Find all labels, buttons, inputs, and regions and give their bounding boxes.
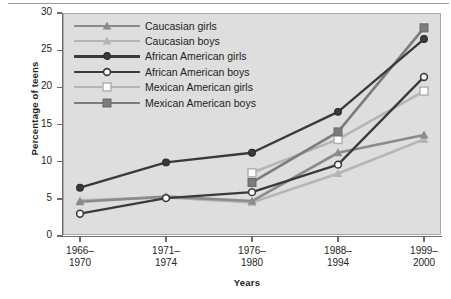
legend-label: Mexican American girls bbox=[140, 81, 253, 93]
data-point-marker bbox=[248, 178, 256, 186]
chart-legend: Caucasian girlsCaucasian boysAfrican Ame… bbox=[74, 18, 299, 110]
data-point-marker bbox=[104, 53, 111, 60]
legend-item-caucasian-girls[interactable]: Caucasian girls bbox=[74, 18, 299, 33]
data-point-marker bbox=[420, 87, 428, 95]
legend-marker-circle-filled-icon bbox=[101, 50, 113, 62]
legend-item-mexican-american-boys[interactable]: Mexican American boys bbox=[74, 95, 299, 110]
data-point-marker bbox=[103, 37, 112, 45]
legend-label: African American girls bbox=[140, 50, 247, 62]
legend-marker-square-filled-icon bbox=[101, 97, 113, 109]
legend-item-caucasian-boys[interactable]: Caucasian boys bbox=[74, 33, 299, 48]
legend-swatch bbox=[74, 65, 140, 79]
legend-item-african-american-girls[interactable]: African American girls bbox=[74, 49, 299, 64]
data-point-marker bbox=[248, 169, 256, 177]
legend-marker-circle-open-icon bbox=[101, 66, 113, 78]
data-point-marker bbox=[249, 149, 256, 156]
data-point-marker bbox=[334, 135, 342, 143]
legend-marker-triangle-filled-icon bbox=[101, 20, 113, 32]
legend-marker-square-open-icon bbox=[101, 81, 113, 93]
data-point-marker bbox=[421, 36, 428, 43]
legend-label: Mexican American boys bbox=[140, 97, 256, 109]
data-point-marker bbox=[163, 195, 170, 202]
data-point-marker bbox=[335, 161, 342, 168]
legend-label: African American boys bbox=[140, 66, 249, 78]
chart-figure: Percentage of teens Years 051015202530 1… bbox=[0, 0, 451, 299]
legend-swatch bbox=[74, 34, 140, 48]
data-point-marker bbox=[335, 108, 342, 115]
data-point-marker bbox=[103, 83, 111, 91]
legend-swatch bbox=[74, 80, 140, 94]
legend-swatch bbox=[74, 19, 140, 33]
data-point-marker bbox=[104, 68, 111, 75]
legend-swatch bbox=[74, 96, 140, 110]
data-point-marker bbox=[77, 210, 84, 217]
data-point-marker bbox=[103, 21, 112, 29]
data-point-marker bbox=[163, 159, 170, 166]
data-point-marker bbox=[421, 74, 428, 81]
legend-label: Caucasian girls bbox=[140, 20, 217, 32]
legend-marker-triangle-filled-icon bbox=[101, 35, 113, 47]
data-point-marker bbox=[249, 189, 256, 196]
legend-item-mexican-american-girls[interactable]: Mexican American girls bbox=[74, 80, 299, 95]
legend-label: Caucasian boys bbox=[140, 35, 220, 47]
data-point-marker bbox=[77, 184, 84, 191]
legend-swatch bbox=[74, 49, 140, 63]
data-point-marker bbox=[420, 24, 428, 32]
data-point-marker bbox=[103, 99, 111, 107]
data-point-marker bbox=[334, 128, 342, 136]
legend-item-african-american-boys[interactable]: African American boys bbox=[74, 64, 299, 79]
